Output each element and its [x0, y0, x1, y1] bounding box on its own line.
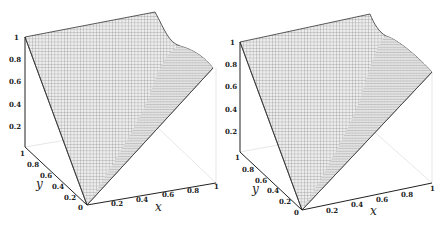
svg-text:0.4: 0.4	[9, 100, 21, 109]
svg-text:1: 1	[20, 149, 25, 158]
svg-text:0.4: 0.4	[136, 195, 148, 204]
svg-text:0.2: 0.2	[326, 206, 338, 215]
svg-text:0.4: 0.4	[351, 200, 363, 209]
svg-text:0.8: 0.8	[187, 186, 199, 195]
x-ticks: 0.2 0.4 0.6 0.8 1	[111, 182, 219, 208]
svg-text:0.6: 0.6	[376, 195, 388, 204]
y-axis-label: y	[251, 182, 259, 196]
surface-plot-left: 1 0.8 0.6 0.4 0.2 1 0.8 0.6 0.4 0.2 0 y …	[0, 0, 224, 227]
svg-text:0.2: 0.2	[279, 197, 291, 206]
svg-text:0.4: 0.4	[267, 186, 279, 195]
svg-text:0.2: 0.2	[9, 122, 21, 131]
x-axis-label: x	[370, 204, 377, 218]
svg-text:0: 0	[78, 203, 83, 212]
svg-text:0.6: 0.6	[9, 77, 21, 86]
surface-plot-right: 1 0.8 0.6 0.4 0.2 1 0.8 0.6 0.4 0.2 0 y …	[224, 0, 448, 227]
svg-text:0.8: 0.8	[242, 165, 254, 174]
svg-text:0.6: 0.6	[162, 190, 174, 199]
x-ticks: 0.2 0.4 0.6 0.8 1	[326, 184, 435, 215]
plot-canvas-left: 1 0.8 0.6 0.4 0.2 1 0.8 0.6 0.4 0.2 0 y …	[0, 0, 224, 227]
x-axis-label: x	[155, 200, 162, 214]
svg-text:0: 0	[294, 208, 299, 217]
svg-text:0.8: 0.8	[401, 190, 413, 199]
svg-text:0.4: 0.4	[52, 182, 64, 191]
svg-text:1: 1	[430, 184, 435, 193]
surface-mesh	[25, 12, 213, 205]
surface-mesh	[240, 14, 432, 210]
svg-text:0.8: 0.8	[27, 160, 39, 169]
svg-text:1: 1	[214, 182, 219, 191]
svg-text:1: 1	[230, 38, 235, 47]
svg-text:0.6: 0.6	[225, 82, 237, 91]
plot-canvas-right: 1 0.8 0.6 0.4 0.2 1 0.8 0.6 0.4 0.2 0 y …	[224, 0, 448, 227]
y-axis-label: y	[35, 177, 43, 191]
svg-text:0.2: 0.2	[64, 193, 76, 202]
svg-text:0.8: 0.8	[225, 60, 237, 69]
svg-text:0.2: 0.2	[225, 127, 237, 136]
svg-text:0.4: 0.4	[225, 105, 237, 114]
svg-text:1: 1	[235, 153, 240, 162]
z-ticks: 1 0.8 0.6 0.4 0.2	[9, 33, 21, 131]
svg-text:0.8: 0.8	[9, 55, 21, 64]
svg-text:1: 1	[14, 33, 19, 42]
svg-text:0.2: 0.2	[111, 199, 123, 208]
z-ticks: 1 0.8 0.6 0.4 0.2	[225, 38, 237, 136]
